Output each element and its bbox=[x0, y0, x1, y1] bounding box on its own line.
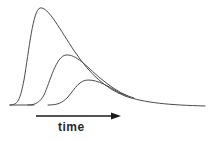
time-arrow-head-icon bbox=[111, 113, 121, 120]
curve-tall bbox=[10, 8, 205, 106]
curve-medium bbox=[28, 55, 128, 105]
pulse-curves-diagram bbox=[0, 0, 217, 141]
time-axis-label: time bbox=[58, 120, 85, 134]
